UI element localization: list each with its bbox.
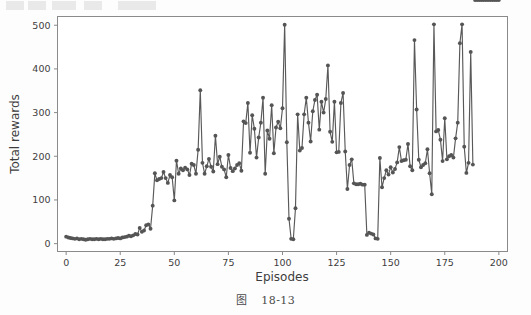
- data-point-marker: [389, 165, 393, 169]
- data-point-marker: [339, 101, 343, 105]
- data-point-marker: [198, 88, 202, 92]
- data-point-marker: [246, 101, 250, 105]
- data-point-marker: [276, 120, 280, 124]
- data-point-marker: [382, 176, 386, 180]
- data-point-marker: [175, 159, 179, 163]
- data-point-marker: [460, 22, 464, 26]
- data-point-marker: [281, 106, 285, 110]
- data-point-marker: [151, 204, 155, 208]
- x-tick-label: 100: [273, 257, 291, 268]
- data-point-marker: [376, 237, 380, 241]
- data-point-marker: [417, 158, 421, 162]
- data-point-marker: [162, 170, 166, 174]
- data-point-marker: [428, 171, 432, 175]
- data-point-marker: [441, 159, 445, 163]
- data-point-marker: [467, 161, 471, 165]
- data-point-marker: [371, 233, 375, 237]
- data-point-marker: [252, 127, 256, 131]
- data-point-marker: [397, 145, 401, 149]
- data-point-marker: [343, 150, 347, 154]
- data-point-marker: [410, 168, 414, 172]
- data-point-marker: [319, 100, 323, 104]
- data-point-marker: [315, 93, 319, 97]
- x-tick-label: 125: [328, 257, 346, 268]
- data-point-marker: [309, 139, 313, 143]
- data-point-marker: [341, 91, 345, 95]
- figure-caption: 图18-13: [0, 291, 531, 307]
- data-point-marker: [302, 112, 306, 116]
- data-point-marker: [146, 222, 150, 226]
- data-point-marker: [391, 170, 395, 174]
- data-point-marker: [324, 97, 328, 101]
- data-point-marker: [307, 121, 311, 125]
- data-point-marker: [296, 112, 300, 116]
- x-tick-label: 175: [436, 257, 454, 268]
- page-background: 0100200300400500 0255075100125150175200 …: [0, 0, 531, 315]
- data-point-marker: [274, 126, 278, 130]
- data-point-marker: [423, 161, 427, 165]
- data-point-marker: [188, 173, 192, 177]
- data-point-marker: [345, 187, 349, 191]
- data-point-marker: [378, 156, 382, 160]
- data-point-marker: [194, 172, 198, 176]
- data-point-marker: [138, 226, 142, 230]
- y-tick-label: 300: [32, 107, 50, 118]
- data-point-marker: [207, 157, 211, 161]
- x-axis-title: Episodes: [255, 270, 308, 284]
- data-point-marker: [166, 181, 170, 185]
- data-point-marker: [203, 172, 207, 176]
- data-point-marker: [469, 50, 473, 54]
- data-point-marker: [430, 192, 434, 196]
- data-point-marker: [255, 156, 259, 160]
- data-point-marker: [395, 160, 399, 164]
- data-point-marker: [413, 38, 417, 42]
- data-point-marker: [257, 136, 261, 140]
- y-axis-title: Total rewards: [8, 94, 22, 175]
- data-point-marker: [458, 41, 462, 45]
- x-tick-label: 50: [168, 257, 180, 268]
- data-point-marker: [185, 167, 189, 171]
- caption-number: 18-13: [261, 294, 295, 307]
- data-point-marker: [436, 128, 440, 132]
- data-point-marker: [153, 171, 157, 175]
- data-point-marker: [313, 98, 317, 102]
- data-point-marker: [196, 148, 200, 152]
- data-point-marker: [291, 237, 295, 241]
- data-point-marker: [443, 116, 447, 120]
- data-point-marker: [350, 157, 354, 161]
- data-point-marker: [330, 140, 334, 144]
- data-point-marker: [222, 167, 226, 171]
- data-point-marker: [268, 137, 272, 141]
- data-point-marker: [170, 175, 174, 179]
- data-point-marker: [205, 164, 209, 168]
- data-point-marker: [259, 121, 263, 125]
- data-point-marker: [456, 121, 460, 125]
- data-point-marker: [304, 96, 308, 100]
- data-point-marker: [328, 130, 332, 134]
- data-point-marker: [248, 151, 252, 155]
- data-point-marker: [322, 111, 326, 115]
- data-point-marker: [287, 217, 291, 221]
- data-point-marker: [239, 169, 243, 173]
- data-point-marker: [263, 172, 267, 176]
- data-point-marker: [462, 145, 466, 149]
- data-point-marker: [272, 151, 276, 155]
- data-point-marker: [438, 138, 442, 142]
- data-point-marker: [464, 171, 468, 175]
- data-point-marker: [218, 155, 222, 159]
- data-point-marker: [451, 156, 455, 160]
- data-point-marker: [406, 142, 410, 146]
- data-point-marker: [164, 176, 168, 180]
- data-point-marker: [285, 140, 289, 144]
- data-point-marker: [261, 96, 265, 100]
- data-point-marker: [270, 103, 274, 107]
- data-point-marker: [265, 129, 269, 133]
- data-point-marker: [317, 128, 321, 132]
- plot-background: [57, 16, 508, 252]
- data-point-marker: [216, 162, 220, 166]
- x-tick-label: 0: [63, 257, 69, 268]
- x-axis-ticks: 0255075100125150175200: [63, 252, 508, 268]
- data-point-marker: [415, 108, 419, 112]
- data-point-marker: [300, 146, 304, 150]
- data-point-marker: [294, 206, 298, 210]
